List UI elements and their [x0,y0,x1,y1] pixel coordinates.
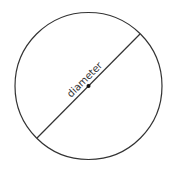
diameter-label: diameter [65,59,105,99]
diameter-diagram: diameter [0,0,170,170]
